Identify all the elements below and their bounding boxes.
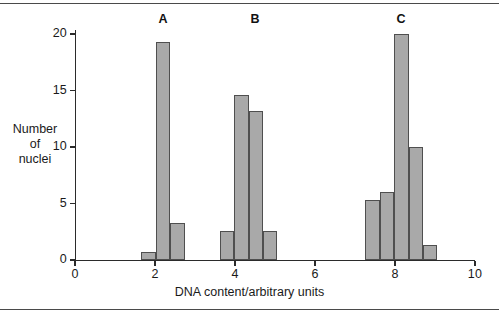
x-axis-title: DNA content/arbitrary units bbox=[0, 285, 499, 299]
histogram-bar bbox=[365, 200, 379, 260]
y-tick-label-0: 0 bbox=[27, 252, 67, 266]
x-tick-2 bbox=[154, 261, 155, 266]
histogram-bar bbox=[409, 147, 423, 260]
y-tick-label-5: 5 bbox=[27, 196, 67, 210]
group-label-b: B bbox=[235, 12, 275, 26]
histogram-bar bbox=[156, 42, 170, 260]
histogram-bar bbox=[249, 111, 263, 260]
y-axis-title-line-3: nuclei bbox=[6, 152, 64, 167]
y-axis-line bbox=[75, 30, 76, 261]
x-tick-label-4: 4 bbox=[215, 267, 255, 281]
x-tick-label-6: 6 bbox=[295, 267, 335, 281]
histogram-bar bbox=[423, 245, 437, 260]
y-tick-label-15: 15 bbox=[27, 83, 67, 97]
histogram-bar bbox=[234, 95, 248, 260]
histogram-bar bbox=[220, 231, 234, 260]
x-tick-label-10: 10 bbox=[455, 267, 495, 281]
x-tick-label-8: 8 bbox=[375, 267, 415, 281]
histogram-bar bbox=[141, 252, 155, 260]
group-label-a: A bbox=[143, 12, 183, 26]
x-tick-6 bbox=[314, 261, 315, 266]
y-tick-5 bbox=[70, 203, 75, 204]
histogram-bar bbox=[263, 231, 277, 260]
x-tick-label-0: 0 bbox=[55, 267, 95, 281]
group-label-c: C bbox=[381, 12, 421, 26]
x-tick-0 bbox=[74, 261, 75, 266]
x-tick-10 bbox=[474, 261, 475, 266]
x-tick-label-2: 2 bbox=[135, 267, 175, 281]
y-axis-title-line-2: of bbox=[6, 137, 64, 152]
y-axis-title: Number of nuclei bbox=[6, 122, 64, 167]
histogram-bar bbox=[380, 192, 394, 260]
x-axis-line bbox=[75, 260, 475, 261]
histogram-plot-area: 051015200246810ABC bbox=[0, 0, 499, 318]
x-tick-4 bbox=[234, 261, 235, 266]
y-axis-title-line-1: Number bbox=[6, 122, 64, 137]
y-tick-15 bbox=[70, 90, 75, 91]
histogram-bar bbox=[170, 223, 184, 260]
y-tick-20 bbox=[70, 33, 75, 34]
y-tick-10 bbox=[70, 146, 75, 147]
histogram-bar bbox=[394, 34, 408, 260]
x-tick-8 bbox=[394, 261, 395, 266]
y-tick-label-20: 20 bbox=[27, 26, 67, 40]
figure-container: 051015200246810ABC Number of nuclei DNA … bbox=[0, 0, 499, 318]
